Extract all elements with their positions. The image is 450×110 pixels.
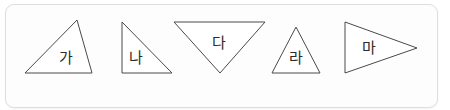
triangle-ma-outline[interactable] (345, 22, 417, 73)
figure-da[interactable]: 다 (174, 22, 265, 73)
shape-canvas: 가 나 다 라 마 (0, 0, 450, 94)
figure-ma[interactable]: 마 (345, 22, 417, 73)
figure-na[interactable]: 나 (122, 22, 172, 73)
figure-ga[interactable]: 가 (25, 20, 92, 73)
figure-label-ga-text: 가 (59, 49, 73, 67)
figure-label-ma: 마 (362, 39, 376, 57)
figure-label-da: 다 (212, 34, 226, 52)
figure-label-ma-text: 마 (362, 39, 376, 57)
figure-label-ra: 라 (289, 49, 303, 67)
figure-label-na: 나 (129, 49, 143, 67)
figure-label-ga: 가 (59, 49, 73, 67)
figure-label-na-text: 나 (129, 49, 143, 67)
figure-label-da-text: 다 (212, 34, 226, 52)
figure-ra[interactable]: 라 (272, 27, 320, 73)
figure-label-ra-text: 라 (289, 49, 303, 67)
